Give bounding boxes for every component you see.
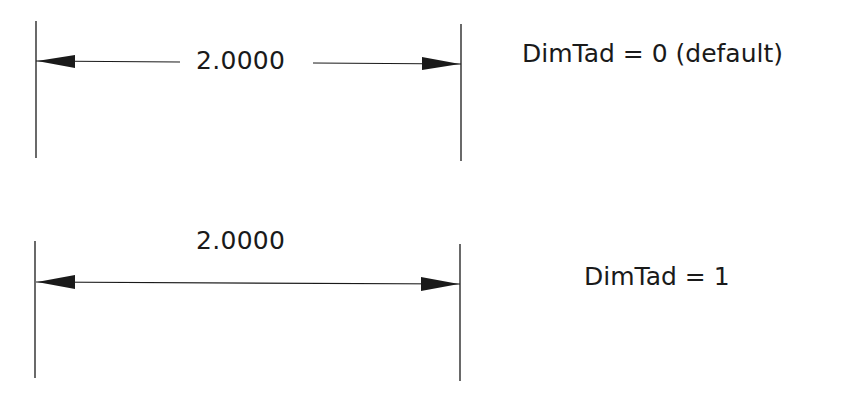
arrowhead-left-icon xyxy=(37,55,75,68)
dimension-example-2 xyxy=(35,241,460,381)
dimension-example-1 xyxy=(36,21,461,161)
arrowhead-left-icon xyxy=(37,275,75,289)
dimension-value-2: 2.0000 xyxy=(196,228,285,253)
setting-label-1: DimTad = 0 (default) xyxy=(522,41,783,66)
arrowhead-right-icon xyxy=(422,57,460,70)
setting-label-2: DimTad = 1 xyxy=(584,264,730,289)
dimension-value-1: 2.0000 xyxy=(196,48,285,73)
dimtad-diagram: 2.0000 DimTad = 0 (default) 2.0000 DimTa… xyxy=(0,0,844,393)
dimension-line xyxy=(36,282,460,284)
arrowhead-right-icon xyxy=(421,277,459,291)
